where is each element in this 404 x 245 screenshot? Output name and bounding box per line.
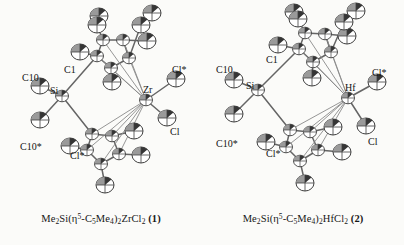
caption-compound-number: (1) bbox=[148, 213, 161, 224]
thermal-ellipsoids bbox=[31, 5, 185, 193]
caption-mid: HfCl bbox=[323, 213, 344, 224]
caption-compound-number: (2) bbox=[351, 213, 364, 224]
structure-panel-zr: C10 Si C1 Zr Cl* Cl C10* Cl* Me2Si(η5-C5… bbox=[0, 0, 202, 245]
label-si: Si bbox=[50, 86, 58, 96]
caption-mid: Si( bbox=[59, 213, 72, 224]
label-cl-star-top: Cl* bbox=[172, 65, 186, 75]
label-c1: C1 bbox=[64, 65, 76, 75]
caption-mid: ZrCl bbox=[121, 213, 141, 224]
label-c10-star: C10* bbox=[216, 139, 238, 149]
label-c1: C1 bbox=[266, 55, 278, 65]
label-c1-star: Cl* bbox=[266, 149, 280, 159]
caption-text-1: Me bbox=[41, 213, 55, 224]
label-c10: C10 bbox=[22, 73, 39, 83]
thermal-ellipsoids bbox=[225, 3, 386, 191]
caption-mid: Me bbox=[297, 213, 311, 224]
caption-mid: -C bbox=[283, 213, 294, 224]
label-si: Si bbox=[246, 81, 254, 91]
label-c1-star: Cl* bbox=[70, 151, 84, 161]
caption-structure-1: Me2Si(η5-C5Me4)2ZrCl2 (1) bbox=[0, 212, 202, 226]
label-metal-zr: Zr bbox=[143, 85, 152, 95]
caption-structure-2: Me2Si(η5-C5Me4)2HfCl2 (2) bbox=[202, 212, 404, 226]
ortep-drawing-zr bbox=[0, 0, 202, 205]
caption-mid: -C bbox=[81, 213, 92, 224]
label-cl: Cl bbox=[170, 127, 179, 137]
structure-panel-hf: C10 Si C1 Hf Cl* Cl C10* Cl* Me2Si(η5-C5… bbox=[202, 0, 404, 245]
label-cl: Cl bbox=[368, 137, 377, 147]
caption-text-2: Me bbox=[243, 213, 257, 224]
caption-mid: Si( bbox=[261, 213, 274, 224]
caption-mid: Me bbox=[96, 213, 110, 224]
label-cl-star-top: Cl* bbox=[372, 68, 386, 78]
ortep-figure: C10 Si C1 Zr Cl* Cl C10* Cl* Me2Si(η5-C5… bbox=[0, 0, 404, 245]
label-metal-hf: Hf bbox=[345, 83, 356, 93]
label-c10: C10 bbox=[216, 65, 233, 75]
ortep-drawing-hf bbox=[202, 0, 404, 205]
label-c10-star: C10* bbox=[20, 142, 42, 152]
